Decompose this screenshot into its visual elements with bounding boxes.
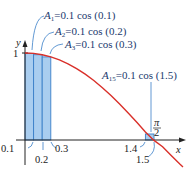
diagram-canvas: A1=0.1 cos (0.1) A2=0.1 cos (0.2) A3=0.1… — [0, 0, 194, 178]
tick-0.3: 0.3 — [55, 143, 68, 154]
rect-1 — [25, 53, 34, 140]
rect-2 — [34, 55, 43, 140]
tick-1.5: 1.5 — [136, 154, 149, 165]
x-axis-label: x — [175, 144, 181, 155]
riemann-rectangles — [25, 53, 154, 140]
rect-3 — [42, 57, 51, 140]
y-axis-label: y — [15, 37, 21, 48]
pi-denominator: 2 — [154, 127, 159, 138]
tick-1.4: 1.4 — [124, 143, 138, 154]
tick-0.1: 0.1 — [1, 143, 14, 154]
riemann-sum-diagram: A1=0.1 cos (0.1) A2=0.1 cos (0.2) A3=0.1… — [0, 0, 194, 178]
y-tick-1: 1 — [13, 48, 18, 59]
tick-0.2: 0.2 — [35, 154, 48, 165]
x-axis-arrow-icon — [179, 138, 186, 143]
label-a1: A1=0.1 cos (0.1) — [43, 9, 116, 23]
label-a2: A2=0.1 cos (0.2) — [54, 25, 127, 39]
label-a15: A15=0.1 cos (1.5) — [101, 69, 177, 83]
label-a3: A3=0.1 cos (0.3) — [64, 38, 137, 52]
y-axis-arrow-icon — [23, 40, 28, 47]
